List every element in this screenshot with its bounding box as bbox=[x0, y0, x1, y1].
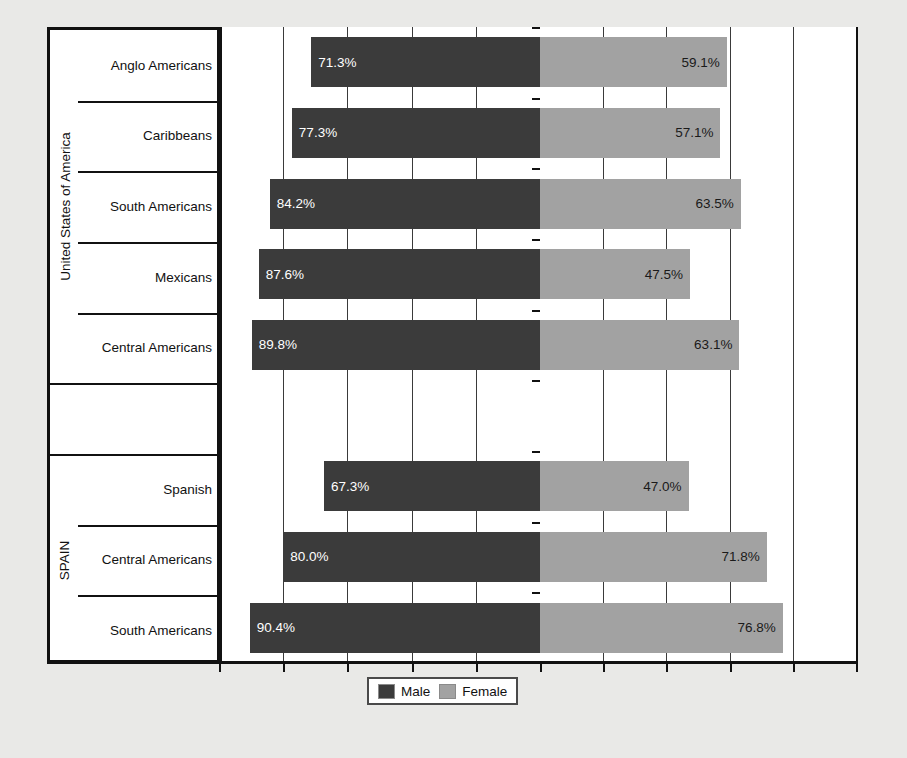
bar-value-female: 47.5% bbox=[645, 268, 683, 282]
category-label-text: Anglo Americans bbox=[111, 58, 212, 73]
bar-value-male: 77.3% bbox=[299, 126, 337, 140]
legend-label-female: Female bbox=[462, 684, 507, 699]
bar-value-male: 90.4% bbox=[257, 621, 295, 635]
bar-male[interactable]: 80.0% bbox=[283, 532, 540, 582]
category-label-text: Spanish bbox=[163, 482, 212, 497]
bar-male[interactable]: 87.6% bbox=[259, 249, 540, 299]
value-tick-right-80 bbox=[793, 661, 795, 672]
bar-male[interactable]: 84.2% bbox=[270, 179, 540, 229]
value-tick-left-40 bbox=[412, 661, 414, 672]
bar-value-male: 80.0% bbox=[290, 550, 328, 564]
value-tick-right-60 bbox=[730, 661, 732, 672]
value-tick-right-20 bbox=[603, 661, 605, 672]
center-axis bbox=[219, 27, 222, 663]
value-tick-left-100 bbox=[219, 661, 221, 672]
category-label-anglo-americans: Anglo Americans bbox=[78, 30, 217, 101]
group-label-usa: United States of America bbox=[52, 30, 78, 383]
center-axis-tick bbox=[532, 380, 540, 382]
value-tick-left-0 bbox=[540, 661, 542, 672]
bar-female[interactable]: 71.8% bbox=[540, 532, 767, 582]
center-axis-tick bbox=[532, 27, 540, 29]
group-label-spain-text: SPAIN bbox=[58, 540, 73, 580]
value-tick-right-40 bbox=[666, 661, 668, 672]
bar-value-female: 47.0% bbox=[643, 480, 681, 494]
bar-male[interactable]: 71.3% bbox=[311, 37, 540, 87]
center-axis-tick bbox=[532, 168, 540, 170]
bar-male[interactable]: 77.3% bbox=[292, 108, 540, 158]
value-tick-left-80 bbox=[283, 661, 285, 672]
bar-value-female: 63.1% bbox=[694, 338, 732, 352]
bar-row: 67.3%47.0% bbox=[219, 461, 858, 511]
bar-value-female: 71.8% bbox=[722, 550, 760, 564]
bar-female[interactable]: 76.8% bbox=[540, 603, 783, 653]
legend-item-female[interactable]: Female bbox=[439, 684, 507, 699]
bar-male[interactable]: 89.8% bbox=[252, 320, 540, 370]
value-tick-right-100 bbox=[856, 661, 858, 672]
chart-page: United States of America SPAIN Anglo Ame… bbox=[0, 0, 907, 758]
bar-female[interactable]: 47.0% bbox=[540, 461, 689, 511]
bar-value-female: 59.1% bbox=[681, 56, 719, 70]
category-label-mexicans: Mexicans bbox=[78, 242, 217, 313]
center-axis-tick bbox=[532, 310, 540, 312]
category-label-text: Central Americans bbox=[102, 340, 212, 355]
bar-value-female: 63.5% bbox=[695, 197, 733, 211]
center-axis-tick bbox=[532, 592, 540, 594]
bar-male[interactable]: 67.3% bbox=[324, 461, 540, 511]
value-axis bbox=[47, 661, 858, 664]
category-label-central-americans: Central Americans bbox=[78, 313, 217, 384]
group-label-usa-text: United States of America bbox=[58, 132, 73, 281]
bar-value-male: 84.2% bbox=[277, 197, 315, 211]
category-label-central-americans: Central Americans bbox=[78, 525, 217, 596]
category-label-text: Central Americans bbox=[102, 552, 212, 567]
category-label-text: South Americans bbox=[110, 199, 212, 214]
category-spacer-row bbox=[78, 383, 217, 454]
bar-row: 71.3%59.1% bbox=[219, 37, 858, 87]
center-axis-tick bbox=[532, 239, 540, 241]
bar-female[interactable]: 47.5% bbox=[540, 249, 690, 299]
category-label-text: Mexicans bbox=[155, 270, 212, 285]
center-axis-tick bbox=[532, 522, 540, 524]
bar-row bbox=[219, 391, 858, 441]
category-axis: United States of America SPAIN Anglo Ame… bbox=[47, 27, 219, 663]
center-axis-tick bbox=[532, 98, 540, 100]
plot-body: 71.3%59.1%77.3%57.1%84.2%63.5%87.6%47.5%… bbox=[219, 27, 858, 663]
bar-value-male: 87.6% bbox=[266, 268, 304, 282]
value-tick-left-20 bbox=[476, 661, 478, 672]
category-label-text: Caribbeans bbox=[143, 128, 212, 143]
bar-female[interactable]: 59.1% bbox=[540, 37, 727, 87]
bar-female[interactable]: 63.1% bbox=[540, 320, 739, 370]
category-label-south-americans: South Americans bbox=[78, 171, 217, 242]
bar-value-male: 89.8% bbox=[259, 338, 297, 352]
center-axis-tick bbox=[532, 451, 540, 453]
value-tick-left-60 bbox=[347, 661, 349, 672]
bar-row: 77.3%57.1% bbox=[219, 108, 858, 158]
bar-row: 90.4%76.8% bbox=[219, 603, 858, 653]
bar-row: 89.8%63.1% bbox=[219, 320, 858, 370]
group-label-spain: SPAIN bbox=[52, 454, 78, 666]
legend-swatch-male-icon bbox=[378, 684, 395, 699]
plot-right-border bbox=[856, 27, 858, 663]
bar-female[interactable]: 57.1% bbox=[540, 108, 720, 158]
category-label-south-americans: South Americans bbox=[78, 595, 217, 666]
bar-value-male: 71.3% bbox=[318, 56, 356, 70]
legend-item-male[interactable]: Male bbox=[378, 684, 430, 699]
category-label-text: South Americans bbox=[110, 623, 212, 638]
bar-male[interactable]: 90.4% bbox=[250, 603, 540, 653]
bar-row: 84.2%63.5% bbox=[219, 179, 858, 229]
bar-value-male: 67.3% bbox=[331, 480, 369, 494]
category-label-spanish: Spanish bbox=[78, 454, 217, 525]
category-rows: Anglo AmericansCaribbeansSouth Americans… bbox=[78, 30, 217, 660]
bar-female[interactable]: 63.5% bbox=[540, 179, 741, 229]
bar-value-female: 57.1% bbox=[675, 126, 713, 140]
bar-value-female: 76.8% bbox=[737, 621, 775, 635]
legend-label-male: Male bbox=[401, 684, 430, 699]
bar-row: 87.6%47.5% bbox=[219, 249, 858, 299]
legend-swatch-female-icon bbox=[439, 684, 456, 699]
category-label-caribbeans: Caribbeans bbox=[78, 101, 217, 172]
chart-legend: Male Female bbox=[367, 677, 518, 705]
bar-row: 80.0%71.8% bbox=[219, 532, 858, 582]
